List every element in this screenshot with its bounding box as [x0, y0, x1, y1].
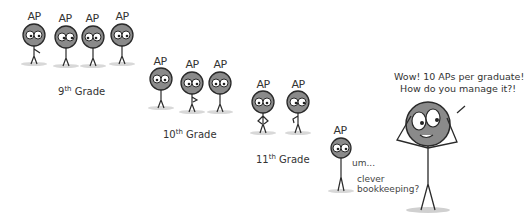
ap-label: AP	[325, 124, 355, 137]
grade-caption: 10th Grade	[163, 128, 217, 140]
ap-label: AP	[77, 12, 107, 25]
mutter-text: um...	[352, 158, 375, 168]
stick-figure	[206, 72, 236, 128]
ap-label: AP	[205, 58, 235, 71]
speech-bubble-text: Wow! 10 APs per graduate! How do you man…	[394, 71, 524, 95]
ap-label: AP	[177, 58, 207, 71]
stick-figure	[284, 91, 314, 147]
stick-figure	[249, 91, 279, 147]
stick-figure-speaker	[395, 96, 465, 213]
grade-caption: 11th Grade	[256, 153, 310, 165]
ap-label: AP	[283, 78, 313, 91]
ap-label: AP	[50, 12, 80, 25]
stick-figure	[20, 24, 50, 80]
grade-caption: 9th Grade	[58, 85, 105, 97]
stick-figure	[178, 72, 208, 128]
ap-label: AP	[248, 78, 278, 91]
stick-figure	[79, 26, 109, 82]
stick-figure	[108, 24, 138, 80]
ap-label: AP	[145, 55, 175, 68]
stick-figure	[52, 26, 82, 82]
ap-label: AP	[107, 10, 137, 23]
stick-figure	[147, 68, 177, 124]
ap-label: AP	[19, 10, 49, 23]
